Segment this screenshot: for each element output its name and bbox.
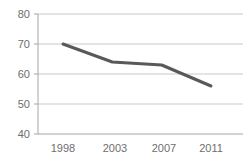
y-tick-label-80: 80 xyxy=(4,8,30,20)
x-tick-label-2007: 2007 xyxy=(144,142,184,154)
x-tick-label-1998: 1998 xyxy=(43,142,83,154)
y-tick-label-40: 40 xyxy=(4,128,30,140)
x-tick-label-2011: 2011 xyxy=(191,142,231,154)
y-tick-label-50: 50 xyxy=(4,98,30,110)
y-tick-label-60: 60 xyxy=(4,68,30,80)
y-axis-ticks xyxy=(34,14,38,134)
series-1-line xyxy=(63,44,211,86)
y-tick-label-70: 70 xyxy=(4,38,30,50)
gridlines xyxy=(38,14,243,104)
x-tick-label-2003: 2003 xyxy=(95,142,135,154)
line-chart: 80 70 60 50 40 1998 2003 2007 2011 xyxy=(0,0,252,168)
